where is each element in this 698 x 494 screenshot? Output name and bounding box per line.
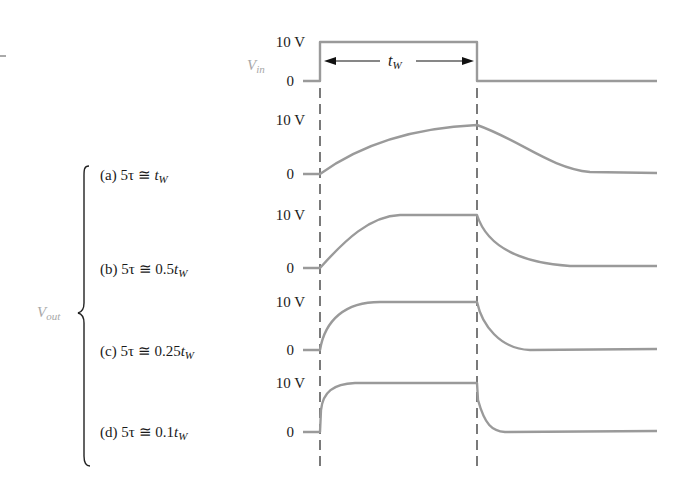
case-d-0-label: 0 [287, 424, 295, 440]
case-a-label: (a) 5τ ≅ tW [100, 167, 169, 185]
case-a-waveform [303, 125, 657, 174]
case-d-label: (d) 5τ ≅ 0.1tW [100, 424, 188, 442]
case-b-0-label: 0 [287, 260, 295, 276]
case-c-10v-label: 10 V [276, 294, 305, 310]
tw-arrow: tW [324, 52, 474, 71]
case-c-label: (c) 5τ ≅ 0.25tW [100, 343, 195, 361]
case-c-waveform [303, 302, 657, 350]
case-a-10v-label: 10 V [276, 112, 305, 128]
tw-label: tW [388, 52, 402, 71]
case-d-10v-label: 10 V [276, 375, 305, 391]
vout-brace [78, 166, 90, 466]
case-b-10v-label: 10 V [276, 207, 305, 223]
case-b-waveform [303, 215, 657, 268]
case-c-0-label: 0 [287, 342, 295, 358]
vin-0-label: 0 [287, 73, 295, 89]
vin-10v-label: 10 V [276, 34, 305, 50]
rc-integrator-pulse-diagram: Vin 10 V 0 tW 10 V 0 (a) 5τ ≅ tW 10 V 0 … [0, 0, 698, 494]
case-a-0-label: 0 [287, 166, 295, 182]
vout-label: Vout [37, 304, 61, 322]
vin-label: Vin [247, 57, 265, 75]
case-b-label: (b) 5τ ≅ 0.5tW [100, 261, 188, 279]
case-d-waveform [303, 383, 657, 432]
